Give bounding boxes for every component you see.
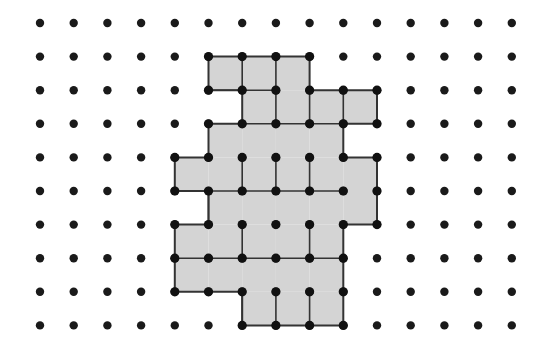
lattice-dot (137, 220, 145, 228)
lattice-dot (204, 321, 212, 329)
polyomino-vertex-dot (204, 186, 213, 195)
lattice-dot (508, 321, 516, 329)
polyomino-cell (310, 292, 344, 326)
polyomino-vertex-dot (372, 86, 381, 95)
polyomino-cell (310, 90, 344, 124)
lattice-dot (474, 288, 482, 296)
lattice-dot (339, 52, 347, 60)
lattice-dot (407, 187, 415, 195)
polyomino-vertex-dot (305, 321, 314, 330)
polyomino-vertex-dot (305, 119, 314, 128)
polyomino-cell (175, 157, 209, 191)
lattice-dot (137, 254, 145, 262)
lattice-dot (70, 321, 78, 329)
lattice-dot (103, 19, 111, 27)
polyomino-vertex-dot (170, 287, 179, 296)
polyomino-vertex-dot (204, 254, 213, 263)
polyomino-cell (310, 191, 344, 225)
lattice-dot (137, 52, 145, 60)
lattice-dot (305, 19, 313, 27)
lattice-dot (339, 19, 347, 27)
lattice-dot (137, 153, 145, 161)
polyomino-cell (242, 225, 276, 259)
lattice-dot (36, 52, 44, 60)
polyomino-cell (209, 225, 243, 259)
lattice-dot (171, 52, 179, 60)
lattice-dot (70, 153, 78, 161)
lattice-dot (440, 19, 448, 27)
polyomino-cell (276, 124, 310, 158)
polyomino-vertex-dot (204, 287, 213, 296)
lattice-dot (70, 19, 78, 27)
lattice-dot (137, 187, 145, 195)
lattice-dot (238, 19, 246, 27)
polyomino-vertex-dot (339, 186, 348, 195)
polyomino-vertex-dot (238, 321, 247, 330)
lattice-dot (137, 120, 145, 128)
lattice-dot (407, 288, 415, 296)
polyomino-vertex-dot (238, 254, 247, 263)
lattice-dot (70, 288, 78, 296)
lattice-dot (440, 288, 448, 296)
polyomino-cell (276, 157, 310, 191)
lattice-dot (36, 254, 44, 262)
lattice-dot (474, 220, 482, 228)
lattice-dot (137, 19, 145, 27)
polyomino-vertex-dot (238, 186, 247, 195)
lattice-dot (103, 52, 111, 60)
lattice-dot (474, 52, 482, 60)
polyomino-cell (209, 157, 243, 191)
lattice-dot (171, 19, 179, 27)
polyomino-cell (343, 90, 377, 124)
lattice-dot (474, 153, 482, 161)
polyomino-cell (276, 258, 310, 292)
lattice-dot (103, 321, 111, 329)
lattice-dot (440, 187, 448, 195)
lattice-dot (508, 254, 516, 262)
polyomino-cell (242, 157, 276, 191)
lattice-dot (70, 220, 78, 228)
polyomino-vertex-dot (170, 153, 179, 162)
lattice-dot (70, 86, 78, 94)
polyomino-vertex-dot (271, 186, 280, 195)
lattice-dot (474, 321, 482, 329)
lattice-dot (508, 120, 516, 128)
polyomino-cell (276, 191, 310, 225)
polyomino-vertex-dot (204, 52, 213, 61)
lattice-dot (508, 153, 516, 161)
lattice-dot (508, 52, 516, 60)
lattice-dot (474, 254, 482, 262)
polyomino-cell (343, 191, 377, 225)
lattice-dot (103, 120, 111, 128)
lattice-dot (171, 120, 179, 128)
polyomino-vertex-dot (271, 254, 280, 263)
lattice-dot (103, 153, 111, 161)
polyomino-vertex-dot (339, 287, 348, 296)
lattice-dot (407, 120, 415, 128)
lattice-dot (440, 120, 448, 128)
polyomino-cell (175, 225, 209, 259)
polyomino-cell (242, 124, 276, 158)
lattice-dot (36, 120, 44, 128)
polyomino-cell (310, 157, 344, 191)
lattice-dot (272, 19, 280, 27)
lattice-dot (407, 86, 415, 94)
polyomino-vertex-dot (271, 220, 280, 229)
lattice-dot (440, 86, 448, 94)
polyomino-vertex-dot (271, 119, 280, 128)
polyomino-vertex-dot (372, 186, 381, 195)
polyomino-vertex-dot (238, 287, 247, 296)
lattice-dot (36, 153, 44, 161)
dot-grid-figure-svg (0, 0, 556, 352)
lattice-dot (36, 321, 44, 329)
lattice-dot (407, 220, 415, 228)
lattice-dot (373, 288, 381, 296)
lattice-dot (508, 19, 516, 27)
polyomino-cell (310, 258, 344, 292)
polyomino-cell (209, 57, 243, 91)
polyomino-vertex-dot (271, 86, 280, 95)
lattice-dot (70, 52, 78, 60)
polyomino-vertex-dot (305, 86, 314, 95)
lattice-dot (36, 86, 44, 94)
polyomino-cell (276, 292, 310, 326)
